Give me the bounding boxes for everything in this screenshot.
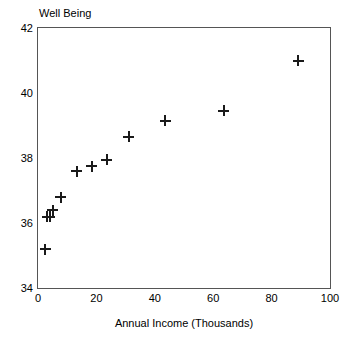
y-axis-tick-label: 40: [21, 88, 33, 99]
data-point-marker: [160, 115, 171, 126]
data-point-marker: [86, 161, 97, 172]
data-point-marker: [47, 205, 58, 216]
data-point-marker: [55, 192, 66, 203]
x-axis-tick-label: 60: [207, 293, 219, 304]
data-point-marker: [293, 55, 304, 66]
data-point-marker: [71, 166, 82, 177]
plot-frame: 3436384042020406080100: [37, 27, 331, 289]
data-point-marker: [101, 154, 112, 165]
y-axis-tick-label: 38: [21, 153, 33, 164]
x-axis-tick-label: 80: [265, 293, 277, 304]
x-axis-label: Annual Income (Thousands): [37, 317, 331, 330]
x-axis-tick-label: 100: [321, 293, 339, 304]
data-point-marker: [40, 244, 51, 255]
plot-area: [38, 28, 330, 288]
y-axis-tick-label: 42: [21, 23, 33, 34]
x-axis-tick-label: 0: [35, 293, 41, 304]
data-point-marker: [44, 211, 55, 222]
scatter-chart-figure: Well Being 3436384042020406080100 Annual…: [0, 0, 358, 339]
y-axis-tick-label: 34: [21, 283, 33, 294]
data-point-marker: [123, 131, 134, 142]
x-axis-tick-label: 20: [90, 293, 102, 304]
y-axis-tick-label: 36: [21, 218, 33, 229]
y-axis-label: Well Being: [39, 7, 91, 20]
data-point-marker: [218, 105, 229, 116]
data-point-marker: [42, 211, 53, 222]
x-axis-tick-label: 40: [149, 293, 161, 304]
